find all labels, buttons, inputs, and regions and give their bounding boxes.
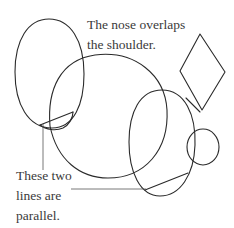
- annotation-line: parallel.: [16, 206, 72, 226]
- annotation-line: These two: [16, 166, 72, 186]
- annotation-line: lines are: [16, 186, 72, 206]
- annotation-line: The nose overlaps: [87, 15, 185, 35]
- annotation-line: the shoulder.: [87, 35, 185, 55]
- annotation-nose-overlap: The nose overlaps the shoulder.: [87, 15, 185, 55]
- large-circle: [50, 54, 168, 178]
- diamond-connector: [186, 98, 200, 112]
- small-circle: [187, 129, 219, 165]
- annotation-parallel-lines: These two lines are parallel.: [16, 166, 72, 226]
- parallel-line-right: [145, 173, 188, 190]
